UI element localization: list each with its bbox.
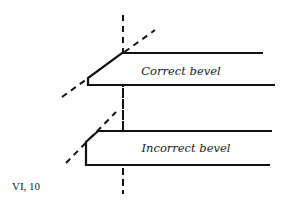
bevel-diagram: Correct bevel Incorrect bevel VI, 10 (0, 0, 283, 206)
figure-number: VI, 10 (12, 180, 41, 192)
incorrect-bevel-label: Incorrect bevel (141, 141, 231, 155)
correct-bevel-shape: Correct bevel (62, 30, 275, 97)
incorrect-bevel-shape: Incorrect bevel (66, 112, 272, 165)
correct-bevel-label: Correct bevel (141, 64, 221, 78)
